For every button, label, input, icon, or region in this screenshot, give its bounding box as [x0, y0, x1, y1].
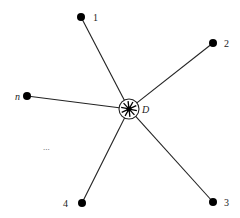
edge-n-to-D — [27, 96, 119, 108]
node-label-3: 3 — [224, 197, 229, 208]
node-label-1: 1 — [93, 12, 98, 23]
edge-3-to-D — [136, 116, 213, 202]
node-2 — [209, 39, 217, 47]
node-3 — [209, 198, 217, 206]
hub-label: D — [141, 104, 150, 115]
node-label-4: 4 — [63, 198, 68, 209]
edge-4-to-D — [82, 118, 125, 203]
ellipsis-more-nodes: ... — [43, 142, 50, 152]
node-n — [23, 92, 31, 100]
node-label-2: 2 — [224, 38, 229, 49]
node-1 — [77, 13, 85, 21]
edge-2-to-D — [137, 43, 213, 103]
node-label-n: n — [15, 91, 20, 102]
node-4 — [78, 199, 86, 207]
edge-1-to-D — [81, 17, 124, 100]
hub-node-D: D — [119, 99, 150, 119]
star-topology-diagram: D 1234n ... — [0, 0, 240, 218]
hub-core — [127, 107, 132, 112]
